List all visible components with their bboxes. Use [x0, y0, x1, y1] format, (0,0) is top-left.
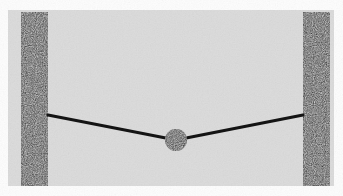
physics-diagram-figure — [0, 0, 343, 196]
scan-grain-overlay — [0, 0, 343, 196]
diagram-canvas — [0, 0, 343, 196]
